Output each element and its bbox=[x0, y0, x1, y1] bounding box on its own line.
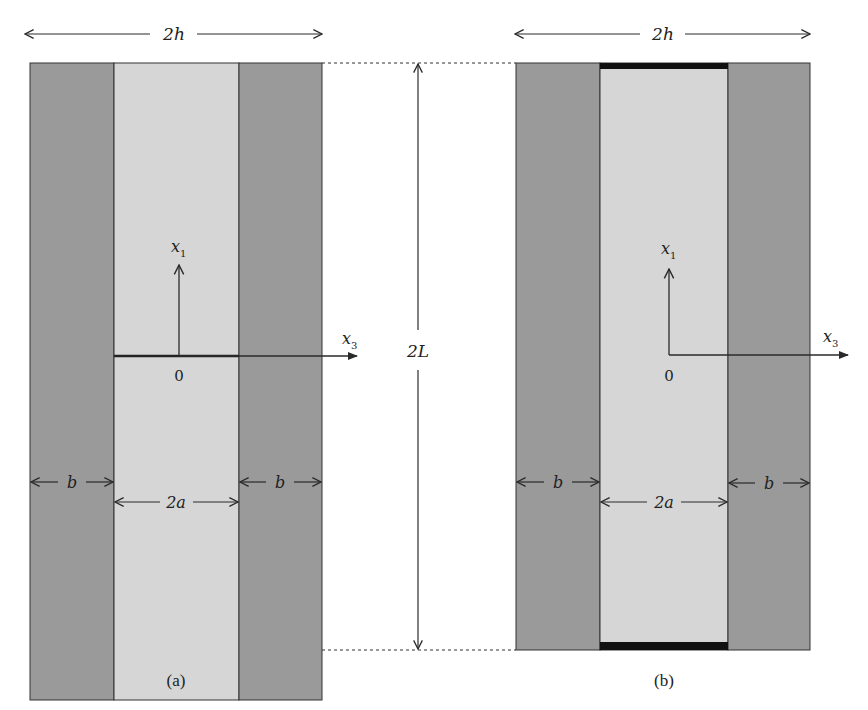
outer-layer-left bbox=[516, 63, 600, 650]
width-label: 2h bbox=[162, 24, 185, 44]
panel-a: 2h x1 x3 0 b 2a b (a) bbox=[25, 24, 357, 700]
height-label: 2L bbox=[406, 341, 429, 361]
figure-canvas: 2h x1 x3 0 b 2a b (a) 2L bbox=[0, 0, 868, 710]
panel-b: 2h x1 x3 0 b 2a b (b) bbox=[515, 24, 848, 690]
caption-a: (a) bbox=[167, 671, 186, 690]
b-right-label: b bbox=[275, 473, 285, 492]
origin-label: 0 bbox=[664, 367, 674, 385]
outer-layer-left bbox=[30, 63, 114, 700]
core-label: 2a bbox=[653, 493, 674, 512]
bottom-electrode bbox=[600, 642, 728, 650]
origin-label: 0 bbox=[174, 367, 184, 385]
b-left-label: b bbox=[553, 473, 563, 492]
outer-layer-right bbox=[728, 63, 810, 650]
outer-layer-right bbox=[239, 63, 322, 700]
x3-label: x3 bbox=[342, 329, 357, 351]
width-label: 2h bbox=[651, 24, 674, 44]
core-label: 2a bbox=[165, 493, 186, 512]
x3-label: x3 bbox=[823, 327, 838, 349]
caption-b: (b) bbox=[654, 671, 674, 690]
b-right-label: b bbox=[764, 474, 774, 493]
top-electrode bbox=[600, 63, 728, 69]
core-layer bbox=[600, 63, 728, 650]
b-left-label: b bbox=[67, 473, 77, 492]
